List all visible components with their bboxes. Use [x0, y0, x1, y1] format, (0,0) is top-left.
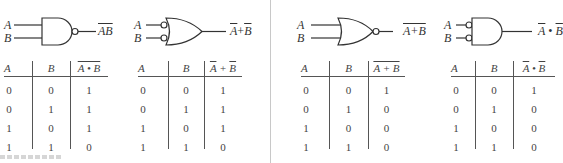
table-cell: 1	[168, 141, 204, 153]
output-expression: A • B	[538, 25, 563, 37]
table-cell: 0	[32, 122, 70, 134]
header-a: A	[4, 62, 18, 74]
input-b-label: B	[4, 32, 11, 44]
table-cell: 0	[368, 103, 405, 115]
table-cell: 0	[70, 141, 108, 153]
output-expression: A+B	[230, 25, 251, 37]
table-cell: 1	[513, 84, 555, 96]
table-cell: 1	[301, 141, 311, 153]
nand-gate-icon	[14, 14, 104, 48]
header-a: A	[451, 62, 465, 74]
header-output: A + B	[204, 62, 242, 74]
header-output: A • B	[513, 62, 555, 74]
header-b: B	[32, 62, 70, 74]
table-cell: 1	[70, 103, 108, 115]
header-a: A	[301, 62, 315, 74]
table-cell: 0	[32, 84, 70, 96]
table-cell: 1	[4, 141, 14, 153]
table-cell: 1	[138, 141, 148, 153]
table-cell: 0	[138, 84, 148, 96]
header-b: B	[475, 62, 513, 74]
table-cell: 0	[475, 84, 513, 96]
truth-table-or-inverted: A B A + B 0 0 1 0 1 1 1 0 1 1 1 0	[138, 61, 242, 151]
table-cell: 1	[475, 103, 513, 115]
table-cell: 0	[513, 103, 555, 115]
table-cell: 0	[475, 122, 513, 134]
or-gate-inverted-inputs-icon	[146, 14, 236, 48]
table-cell: 1	[301, 122, 311, 134]
table-cell: 1	[70, 84, 108, 96]
table-cell: 1	[32, 103, 70, 115]
and-gate-inverted-inputs-icon	[456, 14, 546, 48]
table-cell: 0	[204, 141, 242, 153]
header-output: A + B	[368, 62, 405, 74]
panel-divider	[270, 0, 271, 163]
input-b-label: B	[134, 32, 141, 44]
table-cell: 1	[329, 141, 368, 153]
table-cell: 1	[204, 122, 242, 134]
truth-table-nand: A B A • B 0 0 1 0 1 1 1 0 1 1 1 0	[4, 61, 108, 151]
header-output: A • B	[70, 62, 108, 74]
table-cell: 0	[138, 103, 148, 115]
table-cell: 0	[168, 122, 204, 134]
table-cell: 1	[451, 141, 461, 153]
table-cell: 1	[204, 84, 242, 96]
output-expression: A+B	[403, 25, 426, 37]
table-cell: 0	[451, 84, 461, 96]
input-a-label: A	[134, 19, 141, 31]
table-cell: 0	[329, 122, 368, 134]
table-cell: 0	[4, 103, 14, 115]
table-cell: 1	[70, 122, 108, 134]
truth-table-nor: A B A + B 0 0 1 0 1 0 1 0 0 1 1 0	[301, 61, 405, 151]
table-cell: 1	[168, 103, 204, 115]
output-expression: AB	[98, 25, 113, 37]
table-cell: 0	[451, 103, 461, 115]
header-b: B	[329, 62, 368, 74]
table-cell: 1	[368, 84, 405, 96]
table-cell: 0	[301, 84, 311, 96]
table-cell: 1	[138, 122, 148, 134]
table-cell: 1	[204, 103, 242, 115]
table-cell: 0	[368, 122, 405, 134]
table-cell: 0	[329, 84, 368, 96]
table-cell: 0	[513, 122, 555, 134]
table-cell: 1	[475, 141, 513, 153]
header-a: A	[138, 62, 152, 74]
input-a-label: A	[444, 19, 451, 31]
input-a-label: A	[4, 19, 11, 31]
footer-artifact	[0, 155, 62, 159]
table-cell: 1	[32, 141, 70, 153]
nor-gate-icon	[311, 14, 401, 48]
table-cell: 0	[168, 84, 204, 96]
table-cell: 0	[301, 103, 311, 115]
header-b: B	[168, 62, 204, 74]
table-cell: 1	[329, 103, 368, 115]
table-cell: 0	[4, 84, 14, 96]
table-cell: 0	[513, 141, 555, 153]
input-b-label: B	[444, 32, 451, 44]
input-b-label: B	[297, 32, 304, 44]
input-a-label: A	[297, 19, 304, 31]
truth-table-and-inverted: A B A • B 0 0 1 0 1 0 1 0 0 1 1 0	[451, 61, 555, 151]
table-cell: 0	[368, 141, 405, 153]
table-cell: 1	[4, 122, 14, 134]
table-cell: 1	[451, 122, 461, 134]
